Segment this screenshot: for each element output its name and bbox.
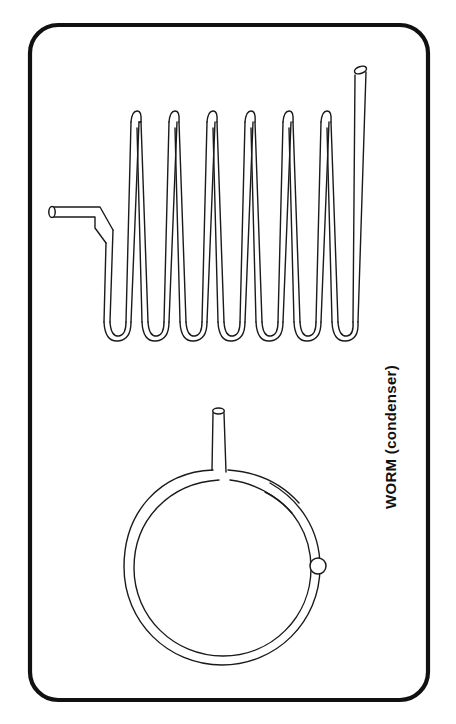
figure-caption: WORM (condenser) xyxy=(382,365,399,509)
inlet-open-end-icon xyxy=(49,206,55,217)
figure-background xyxy=(0,0,456,724)
ring-stem-left-edge xyxy=(212,413,213,470)
figure-root: WORM (condenser) xyxy=(0,0,456,724)
ring-stem-open-end-icon xyxy=(213,408,225,414)
ring-cut-end-icon xyxy=(310,558,326,574)
worm-condenser-figure: WORM (condenser) xyxy=(0,0,456,724)
